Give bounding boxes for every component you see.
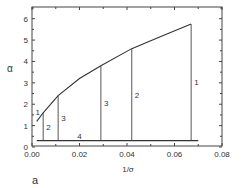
axis-ticks: 0.000.020.040.060.080123456	[24, 7, 231, 159]
chart: 0.000.020.040.060.080123456 2332114 α 1/…	[0, 0, 241, 188]
x-axis-label: 1/σ	[122, 165, 134, 174]
y-axis-label: α	[7, 63, 13, 74]
y-tick-label: 3	[24, 79, 29, 88]
panel-label: a	[32, 174, 39, 186]
line-label: 2	[135, 91, 140, 100]
x-tick-label: 0.06	[167, 150, 183, 159]
plot-labels: 2332114	[35, 78, 199, 140]
x-tick-label: 0.08	[214, 150, 230, 159]
line-label: 3	[61, 114, 66, 123]
x-tick-label: 0.04	[119, 150, 135, 159]
line-label: 3	[104, 99, 109, 108]
series-1	[37, 24, 191, 121]
y-tick-label: 5	[24, 36, 29, 45]
plot-border	[32, 7, 222, 146]
y-tick-label: 6	[24, 15, 29, 24]
y-tick-label: 1	[24, 122, 29, 131]
line-label: 1	[194, 78, 199, 87]
y-tick-label: 2	[24, 100, 29, 109]
line-label: 2	[46, 123, 51, 132]
y-tick-label: 4	[24, 57, 29, 66]
x-tick-label: 0.02	[72, 150, 88, 159]
plot-frame	[32, 7, 222, 146]
curve-label: 1	[35, 108, 40, 117]
y-tick-label: 0	[24, 143, 29, 152]
hline-label: 4	[77, 132, 82, 141]
